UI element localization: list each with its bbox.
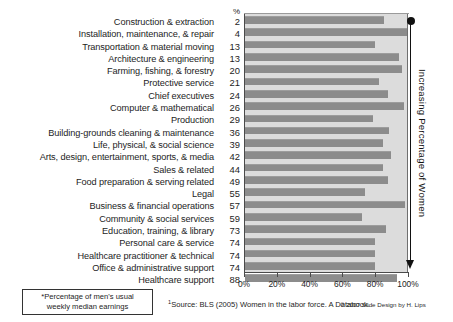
category-label: Personal care & service [0,237,214,249]
category-label: Building-grounds cleaning & maintenance [0,127,214,139]
bar-row [245,186,407,198]
category-label: Protective service [0,77,214,89]
bar [245,41,375,49]
percent-women-value: 36 [216,127,240,139]
chart-root: Construction & extraction Installation, … [0,0,453,322]
bar-row [245,211,407,223]
bar [245,53,399,61]
percent-women-column: % 2 4 13 13 20 21 24 26 29 36 39 42 44 4… [216,8,240,287]
arrow-label: Increasing Percentage of Women [417,69,428,217]
bar-row [245,14,407,26]
bar [245,16,384,24]
percent-column-header: % [216,8,240,16]
bar-row [245,51,407,63]
x-axis-tick-label: 20% [268,279,285,289]
percent-women-value: 24 [216,90,240,102]
percent-women-value: 74 [216,262,240,274]
bar [245,28,407,36]
bar [245,238,375,246]
percent-women-value: 26 [216,102,240,114]
bar [245,115,373,123]
percent-women-value: 73 [216,225,240,237]
earnings-note-line-1: *Percentage of men's usual [41,292,134,303]
bar-row [245,112,407,124]
percent-women-value: 74 [216,250,240,262]
bar [245,188,365,196]
category-label: Production [0,114,214,126]
x-axis-tick-label: 0% [238,279,250,289]
x-axis-tick [408,272,409,277]
bar [245,201,405,209]
x-axis-tick [375,272,376,277]
bar-row [245,26,407,38]
percent-women-value: 49 [216,176,240,188]
percent-women-value: 20 [216,65,240,77]
category-label: Transportation & material moving [0,41,214,53]
credit-note: © 2007 Slide Design by H. Lips [340,301,426,308]
category-label: Community & social services [0,213,214,225]
bar-row [245,137,407,149]
x-axis-tick [342,272,343,277]
percent-women-value: 4 [216,28,240,40]
bar [245,78,379,86]
bar-row [245,223,407,235]
category-label: Installation, maintenance, & repair [0,28,214,40]
percent-women-value: 29 [216,114,240,126]
bar-row [245,149,407,161]
category-label: Chief executives [0,90,214,102]
category-label: Construction & extraction [0,16,214,28]
x-axis-tick [244,272,245,277]
percent-women-value: 13 [216,41,240,53]
percent-women-value: 42 [216,151,240,163]
bar-series [245,14,407,272]
bar [245,176,388,184]
bar [245,127,389,135]
x-axis-tick [277,272,278,277]
bar [245,151,391,159]
bar-row [245,39,407,51]
percent-women-value: 74 [216,237,240,249]
category-label: Life, physical, & social science [0,139,214,151]
bar-row [245,248,407,260]
label-column-spacer [0,8,214,16]
arrow-label-wrapper: Increasing Percentage of Women [414,14,430,272]
bar-row [245,63,407,75]
bar [245,250,375,258]
x-axis-line [244,272,409,273]
bar [245,213,362,221]
bar [245,225,386,233]
category-label: Education, training, & library [0,225,214,237]
percent-women-value: 13 [216,53,240,65]
x-axis-tick-label: 60% [334,279,351,289]
category-label: Healthcare practitioner & technical [0,250,214,262]
percent-women-value: 88 [216,274,240,286]
percent-women-value: 21 [216,77,240,89]
category-label: Food preparation & serving related [0,176,214,188]
bar [245,90,388,98]
bar [245,164,383,172]
percent-women-value: 39 [216,139,240,151]
bar-row [245,75,407,87]
earnings-note-line-2: weekly median earnings [47,302,128,313]
category-label: Architecture & engineering [0,53,214,65]
category-label: Arts, design, entertainment, sports, & m… [0,151,214,163]
x-axis-tick-label: 80% [367,279,384,289]
category-label: Office & administrative support [0,262,214,274]
bar-row [245,174,407,186]
category-label-column: Construction & extraction Installation, … [0,8,214,287]
bar-row [245,88,407,100]
bar-row [245,235,407,247]
plot-area [244,14,408,272]
bar-row [245,260,407,272]
category-label: Business & financial operations [0,200,214,212]
bar [245,262,375,270]
bar [245,102,404,110]
category-label: Legal [0,188,214,200]
percent-women-value: 2 [216,16,240,28]
bar-row [245,125,407,137]
bar-row [245,100,407,112]
arrow-line [410,22,411,262]
category-label: Computer & mathematical [0,102,214,114]
earnings-note-box: *Percentage of men's usual weekly median… [22,289,153,315]
percent-women-value: 55 [216,188,240,200]
